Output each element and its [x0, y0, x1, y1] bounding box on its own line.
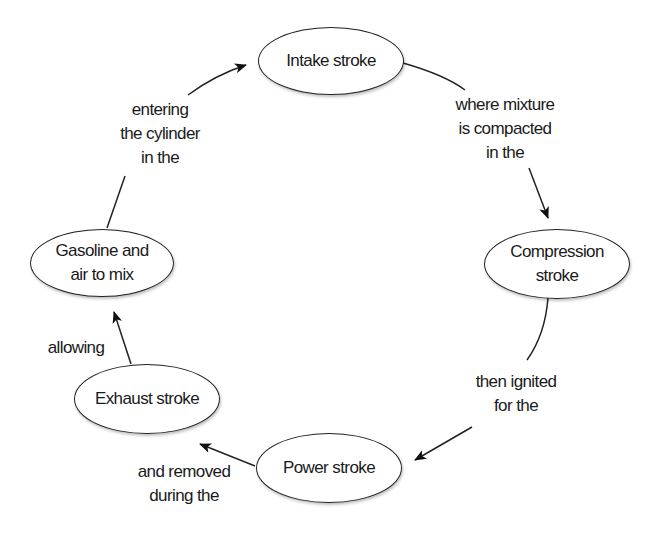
node-label: Exhaust stroke — [95, 387, 199, 411]
edge-gasoline-intake-start — [107, 176, 125, 228]
edge-label-exhaust-gasoline: allowing — [36, 336, 116, 360]
edge-label-compression-power: then ignited for the — [456, 370, 576, 418]
node-power-stroke: Power stroke — [256, 433, 402, 503]
node-gasoline-air: Gasoline and air to mix — [30, 229, 174, 297]
node-label: Intake stroke — [286, 49, 376, 73]
edge-intake-compression-arrow — [529, 168, 548, 218]
edge-label-intake-compression: where mixture is compacted in the — [440, 93, 570, 165]
node-label: Compression stroke — [510, 240, 604, 288]
edge-label-power-exhaust: and removed during the — [124, 460, 244, 508]
edge-compression-power-arrow — [415, 427, 472, 460]
node-intake-stroke: Intake stroke — [258, 27, 404, 95]
edge-label-gasoline-intake: entering the cylinder in the — [100, 98, 220, 170]
edge-compression-power — [527, 298, 548, 360]
node-compression-stroke: Compression stroke — [484, 229, 630, 299]
node-exhaust-stroke: Exhaust stroke — [74, 364, 220, 434]
edge-gasoline-intake-arrow — [188, 65, 246, 95]
edge-exhaust-gasoline — [114, 312, 131, 364]
node-label: Power stroke — [283, 456, 375, 480]
node-label: Gasoline and air to mix — [56, 239, 149, 287]
edge-intake-compression — [403, 63, 465, 90]
